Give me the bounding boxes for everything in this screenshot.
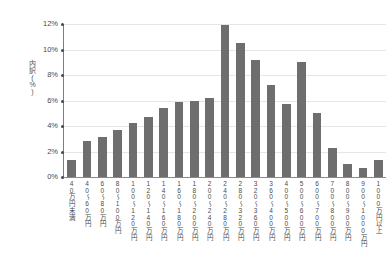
x-tick-label: 100〜120万円 [129,180,136,240]
bar [190,101,199,178]
bar [83,141,92,177]
bar [98,137,107,177]
y-tick-label: 4% [32,122,58,130]
bar [282,104,291,177]
x-tick-label: 180〜200万円 [190,180,197,240]
x-tick-label: 140〜160万円 [160,180,167,240]
x-tick-label: 120〜140万円 [144,180,151,240]
x-tick-label: 320〜360万円 [252,180,259,240]
y-tick-label: 2% [32,148,58,156]
x-tick-label: 700〜800万円 [328,180,335,240]
x-tick-label: 60〜80万円 [98,180,105,227]
bar-chart: 内訳(%) 12%10%8%6%4%2%0% 40万円未満40〜60万円60〜8… [0,0,392,255]
x-tick-label: 500〜600万円 [298,180,305,240]
bars-layer [64,24,386,177]
bar [175,102,184,177]
bar [144,117,153,177]
bar [359,168,368,177]
x-tick-label: 360〜400万円 [267,180,274,240]
bar [297,62,306,177]
bar [251,60,260,177]
x-tick-label: 40万円未満 [68,180,75,220]
y-tick-label: 10% [32,46,58,54]
x-tick-label: 400〜500万円 [282,180,289,240]
bar [113,130,122,177]
y-tick-label: 6% [32,97,58,105]
y-tick-label: 12% [32,20,58,28]
bar [267,85,276,177]
y-tick-label: 0% [32,173,58,181]
x-tick-label: 1000万円以上 [374,180,381,234]
x-tick-label: 80〜100万円 [114,180,121,234]
y-tick-label: 8% [32,71,58,79]
bar [129,123,138,177]
y-axis-tick-labels: 12%10%8%6%4%2%0% [24,24,58,178]
x-tick-label: 160〜180万円 [175,180,182,240]
bar [343,164,352,177]
x-tick-label: 40〜60万円 [83,180,90,227]
x-tick-label: 900〜1000万円 [359,180,366,247]
bar [221,25,230,177]
bar [236,43,245,177]
x-tick-label: 600〜700万円 [313,180,320,240]
x-tick-label: 240〜280万円 [221,180,228,240]
bar [313,113,322,177]
x-tick-label: 200〜240万円 [206,180,213,240]
x-tick-label: 280〜320万円 [236,180,243,240]
axis-baseline [64,177,386,178]
bar [328,148,337,177]
bar [374,160,383,177]
bar [205,98,214,177]
bar [159,108,168,177]
bar [67,160,76,177]
x-tick-label: 800〜900万円 [344,180,351,240]
x-axis-tick-labels: 40万円未満40〜60万円60〜80万円80〜100万円100〜120万円120… [64,180,386,254]
